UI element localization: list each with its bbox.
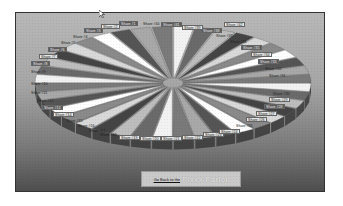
slice-label: Share #22 xyxy=(182,135,203,140)
slice-label: Share #32 xyxy=(263,66,284,71)
slice-label: Share #28 xyxy=(264,104,285,109)
chart-frame: Share #1Share #2Share #3Share #4Share #5… xyxy=(15,12,325,192)
slice-label: Share #29 xyxy=(269,97,290,102)
slice-label: Share #27 xyxy=(256,111,277,116)
slice-label: Share #30 xyxy=(271,91,292,96)
slice-label: Share #19 xyxy=(119,135,140,140)
slice-label: Share #33 xyxy=(258,59,279,64)
slice-label: Share #25 xyxy=(234,123,255,128)
slice-label: Share #24 xyxy=(219,129,240,134)
slice-label: Share #9 xyxy=(29,69,48,74)
slice-label: Share #41 xyxy=(161,22,182,27)
slice-label: Share #31 xyxy=(267,73,288,78)
back-link-text[interactable]: Go Back to the xyxy=(154,177,180,182)
slice-label: Share #21 xyxy=(161,136,182,141)
slice-label: Share #40 xyxy=(141,21,162,26)
slice-label: Share #20 xyxy=(140,136,161,141)
mouse-cursor-icon xyxy=(99,10,105,18)
slice-label: Share #6 xyxy=(48,47,67,52)
slice-label: Share #1 xyxy=(119,21,138,26)
slice-label: Share #35 xyxy=(241,45,262,50)
slice-label: Share #12 xyxy=(35,98,56,103)
slice-label: Share #18 xyxy=(98,132,119,137)
parlor-logo-text: Pixxx Parlor xyxy=(182,175,228,184)
slice-label: Share #38 xyxy=(201,28,222,33)
slice-label: Share #39 xyxy=(182,25,203,30)
back-to-parlor-button[interactable]: Go Back to the Pixxx Parlor xyxy=(141,171,241,187)
slice-label: Share #13 xyxy=(42,105,63,110)
slice-label: Share #4 xyxy=(71,34,90,39)
slice-label: Share #8 xyxy=(31,61,50,66)
slice-label: Share #42 xyxy=(224,22,245,27)
slice-label: Share #14 xyxy=(53,112,74,117)
slice-label: Share #5 xyxy=(59,40,78,45)
slice-label: Share #2 xyxy=(101,24,120,29)
slice-label: Share #3 xyxy=(84,28,103,33)
slice-label: Share #36 xyxy=(228,39,249,44)
slice-label: Share #10 xyxy=(29,81,50,86)
slice-label: Share #34 xyxy=(251,52,272,57)
slice-label: Share #11 xyxy=(29,90,49,95)
slice-label: Share #26 xyxy=(246,117,267,122)
slice-label: Share #7 xyxy=(39,54,58,59)
